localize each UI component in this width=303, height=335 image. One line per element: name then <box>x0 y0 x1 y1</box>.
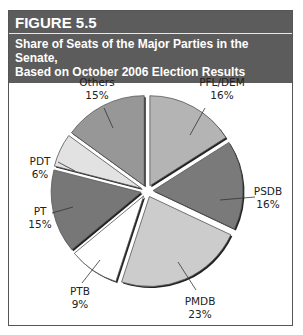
slice-label-name: PSDB <box>254 185 282 197</box>
slice-label-name: PT <box>34 205 47 217</box>
slice-label-name: PFL/DEM <box>199 76 245 88</box>
slice-label-value: 16% <box>210 89 233 101</box>
slice-label-value: 16% <box>256 198 279 210</box>
slice-label-name: Others <box>79 76 114 88</box>
slice-label-value: 15% <box>85 89 108 101</box>
slice-label-name: PDT <box>30 155 51 167</box>
slice-label-name: PMDB <box>185 295 216 307</box>
slice-label-value: 15% <box>28 218 51 230</box>
slice-label-value: 23% <box>188 308 211 320</box>
pie-chart: PFL/DEM16%PSDB16%PMDB23%PTB9%PT15%PDT6%O… <box>0 0 303 335</box>
slice-label-name: PTB <box>70 285 90 297</box>
slice-label-value: 9% <box>72 298 89 310</box>
slice-label-value: 6% <box>32 168 49 180</box>
